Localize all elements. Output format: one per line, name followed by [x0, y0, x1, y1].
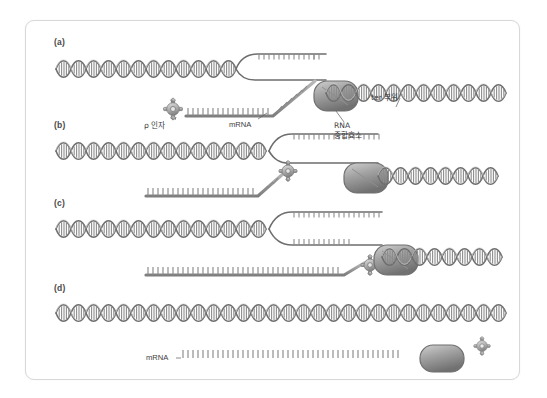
dna-duplex-a-left	[56, 60, 236, 78]
panel-a-leaders	[175, 98, 400, 122]
rna-polymerase-d	[420, 345, 464, 372]
rho-factor-d	[474, 336, 490, 356]
rna-polymerase-label: RNA 중합효소	[334, 121, 362, 140]
dna-duplex-b-left	[56, 142, 266, 160]
dna-duplex-d	[56, 304, 506, 322]
mrna-released-label: mRNA	[146, 353, 168, 363]
transcription-bubble-c	[269, 212, 382, 245]
panel-label-a: (a)	[54, 37, 65, 47]
panel-label-b: (b)	[54, 120, 65, 130]
panel-d-artwork	[56, 304, 506, 372]
ter-site-label: ter 부위	[371, 93, 398, 103]
panel-label-c: (c)	[54, 198, 65, 208]
transcription-bubble-a	[236, 54, 326, 80]
diagram-artwork	[26, 21, 519, 379]
panel-label-d: (d)	[54, 283, 65, 293]
mrna-label: mRNA	[229, 120, 251, 130]
dna-duplex-c-right	[382, 248, 502, 266]
dna-duplex-c-left	[56, 220, 266, 238]
nascent-mrna-a	[186, 81, 315, 116]
dna-duplex-b-right	[378, 167, 498, 185]
released-mrna-d	[181, 350, 404, 358]
diagram-stage: (a) (b) (c) (d) ρ 인자 mRNA ter 부위 RNA 중합효…	[26, 21, 519, 379]
rho-factor-a	[164, 98, 183, 121]
panel-c-artwork	[56, 212, 502, 276]
panel-b-artwork	[56, 134, 498, 196]
nascent-mrna-c	[146, 263, 364, 275]
figure-frame: (a) (b) (c) (d) ρ 인자 mRNA ter 부위 RNA 중합효…	[25, 20, 520, 380]
nascent-mrna-b	[146, 173, 284, 196]
transcription-bubble-b	[269, 134, 379, 163]
rho-factor-label: ρ 인자	[144, 121, 165, 131]
panel-a-artwork	[56, 54, 506, 122]
